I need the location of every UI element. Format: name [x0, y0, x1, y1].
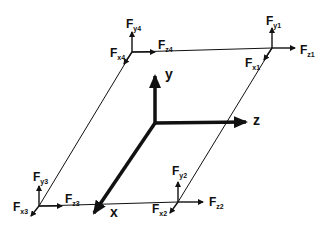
label-fy4: Fy4 — [126, 15, 141, 31]
z-axis-arrow — [155, 122, 246, 123]
label-fz2: Fz2 — [209, 193, 224, 209]
label-fy2: Fy2 — [172, 162, 187, 178]
force-diagram-canvas — [0, 0, 327, 226]
label-fz3: Fz3 — [65, 190, 80, 206]
label-fz4: Fz4 — [158, 36, 173, 52]
axis-label-z: z — [253, 113, 260, 127]
label-fx2: Fx2 — [152, 200, 167, 216]
corner-1-forces — [264, 28, 295, 60]
label-fy1: Fy1 — [266, 12, 281, 28]
label-fz1: Fz1 — [300, 41, 315, 57]
label-fy3: Fy3 — [33, 168, 48, 184]
x-axis-arrow — [94, 123, 155, 213]
label-fx1: Fx1 — [245, 54, 260, 70]
axis-label-x: x — [110, 205, 118, 219]
plate-outline — [39, 48, 272, 206]
corner-3-forces — [31, 186, 62, 216]
label-fx3: Fx3 — [13, 198, 28, 214]
axis-label-y: y — [165, 67, 173, 81]
corner-2-forces — [170, 182, 203, 213]
corner-4-forces — [124, 32, 155, 64]
label-fx4: Fx4 — [110, 44, 125, 60]
